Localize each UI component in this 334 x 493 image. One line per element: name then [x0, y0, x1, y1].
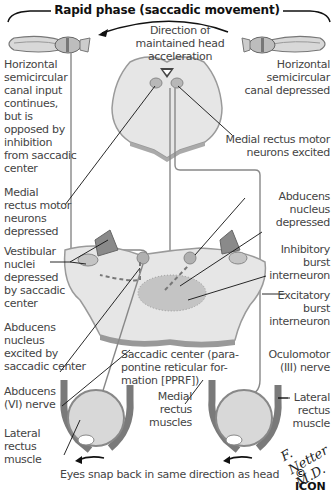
label-medial-rectus-depressed: Medialrectus motor neuronsdepressed [4, 186, 71, 238]
right-eye [212, 380, 278, 464]
label-inhibitory-burst: Inhibitoryburst interneuron [269, 243, 330, 282]
label-saccadic-center: Saccadic center (para-pontine reticular … [121, 348, 239, 387]
label-lateral-rectus-left: Lateralrectus muscle [4, 427, 42, 466]
label-medial-rectus-excited: Medial rectus motorneurons excited [225, 133, 330, 159]
label-medial-rectus-muscles: Medialrectus muscles [140, 390, 192, 429]
label-oculomotor: Oculomotor(III) nerve [269, 348, 330, 374]
label-lateral-rectus-right: Lateralrectus muscle [293, 391, 331, 430]
midbrain-section [112, 57, 222, 162]
label-vestibular-nuclei: Vestibularnuclei depressedby saccadic ce… [4, 245, 65, 310]
left-eye [64, 380, 130, 464]
label-left-canal: Horizontalsemicircularcanal input contin… [4, 58, 77, 175]
right-canal-icon [242, 36, 325, 53]
label-right-canal: Horizontalsemicircularcanal depressed [244, 58, 330, 97]
direction-arrowhead-icon [98, 29, 108, 37]
label-abducens-excited: Abducensnucleus excited bysaccadic cente… [4, 321, 86, 373]
label-excitatory-burst: Excitatoryburst interneuron [269, 289, 330, 328]
caption: Eyes snap back in same direction as head [60, 468, 279, 481]
direction-label: Direction of maintained head acceleratio… [110, 24, 250, 63]
label-abducens-nerve: Abducens(VI) nerve [4, 385, 56, 411]
left-canal-icon [9, 36, 90, 53]
copyright-logo: © ICON [295, 467, 334, 493]
label-abducens-depressed: Abducensnucleus depressed [276, 190, 330, 229]
diagram-title: Rapid phase (saccadic movement) [0, 3, 334, 17]
